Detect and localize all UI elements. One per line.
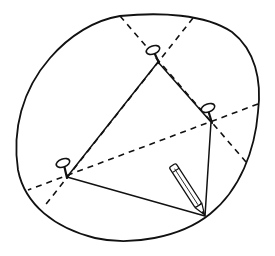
dashed-guide-line <box>28 104 258 190</box>
dashed-guide-line <box>120 16 246 162</box>
traced-closed-curve <box>16 14 259 241</box>
pencil-icon <box>169 163 208 217</box>
pin-icon <box>145 44 161 63</box>
pin-string-construction-diagram: Pin-and-string construction: three pins,… <box>0 0 275 256</box>
